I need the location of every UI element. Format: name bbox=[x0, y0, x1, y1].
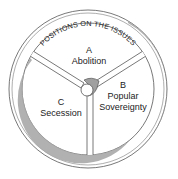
spoke-bottom bbox=[87, 92, 93, 160]
section-b-label-line1: Popular bbox=[107, 91, 138, 101]
section-c-label: Secession bbox=[40, 108, 82, 118]
positions-wheel-diagram: POSITIONS ON THE ISSUES A Abolition B Po… bbox=[0, 0, 178, 179]
section-c-letter: C bbox=[58, 97, 65, 107]
section-a-label: Abolition bbox=[72, 56, 107, 66]
section-a-letter: A bbox=[86, 45, 92, 55]
section-b-label-line2: Sovereignty bbox=[99, 102, 147, 112]
section-b-letter: B bbox=[120, 80, 126, 90]
hub-circle bbox=[81, 84, 93, 96]
